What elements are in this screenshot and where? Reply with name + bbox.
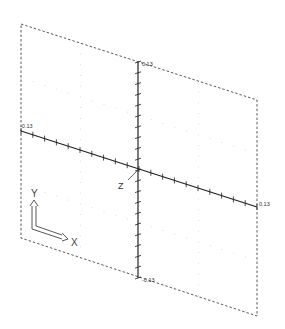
x-axis-left-label: -0.13	[20, 123, 33, 129]
ucs-y-label: Y	[31, 188, 38, 199]
ucs-x-label: X	[71, 237, 78, 248]
3d-viewport[interactable]: Z 0.13 -0.13 -0.13 0.13 Y X	[0, 0, 285, 329]
x-axis	[21, 128, 257, 210]
z-axis	[128, 170, 138, 180]
ucs-icon	[30, 200, 68, 241]
y-axis-bottom-label: -0.13	[142, 277, 155, 283]
x-axis-right-label: 0.13	[259, 201, 270, 207]
z-axis-label: Z	[118, 181, 124, 191]
y-axis-top-label: 0.13	[142, 61, 153, 67]
